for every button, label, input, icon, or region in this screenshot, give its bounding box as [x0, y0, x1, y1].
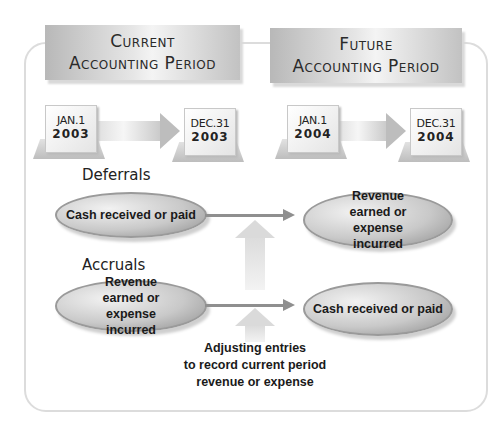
future-period-header: Future Accounting Period: [270, 28, 462, 83]
deferrals-future-node: Revenue earned or expense incurred: [303, 192, 453, 248]
future-period-line1: Future: [270, 33, 462, 55]
accruals-current-node: Revenue earned or expense incurred: [55, 280, 207, 332]
deferrals-label: Deferrals: [82, 166, 151, 184]
current-period-line1: Current: [45, 30, 240, 52]
current-period-arrow: [98, 113, 180, 149]
deferrals-current-node: Cash received or paid: [55, 192, 207, 238]
future-period-arrow: [338, 113, 406, 149]
adjusting-entries-caption: Adjusting entries to record current peri…: [180, 340, 330, 391]
accruals-future-node: Cash received or paid: [303, 282, 453, 336]
current-period-header: Current Accounting Period: [45, 25, 240, 80]
current-period-line2: Accounting Period: [45, 52, 240, 74]
accruals-label: Accruals: [82, 256, 145, 274]
adjusting-deferral-up-arrow: [235, 220, 275, 290]
deferrals-arrow: [205, 210, 295, 220]
future-period-line2: Accounting Period: [270, 55, 462, 77]
calendar-icon-jan1-2004: JAN.12004: [275, 103, 347, 163]
adjusting-accrual-up-arrow: [235, 308, 275, 342]
calendar-icon-dec31-2003: DEC.312003: [172, 106, 244, 166]
calendar-icon-dec31-2004: DEC.312004: [398, 106, 470, 166]
calendar-icon-jan1-2003: JAN.12003: [33, 103, 105, 163]
